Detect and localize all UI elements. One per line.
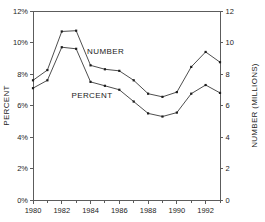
- series-marker-number-1988: [147, 93, 149, 95]
- left-tick-label-10pct: 10%: [13, 38, 28, 47]
- series-marker-number-1993: [219, 61, 221, 63]
- series-marker-number-1987: [133, 79, 135, 81]
- series-marker-percent-1991: [190, 93, 192, 95]
- dual-axis-line-chart: 0%2%4%6%8%10%12% 024681012 1980198219841…: [0, 0, 265, 222]
- right-tick-label-4: 4: [226, 133, 230, 142]
- x-tick-label-1980: 1980: [25, 206, 42, 215]
- series-marker-number-1980: [32, 79, 34, 81]
- series-marker-percent-1980: [32, 87, 34, 89]
- right-tick-label-12: 12: [226, 7, 234, 16]
- series-marker-percent-1984: [89, 81, 91, 83]
- chart-canvas: 0%2%4%6%8%10%12% 024681012 1980198219841…: [0, 0, 265, 222]
- left-tick-label-2pct: 2%: [17, 164, 28, 173]
- chart-background: [0, 0, 265, 222]
- x-tick-label-1988: 1988: [140, 206, 157, 215]
- series-marker-number-1984: [89, 64, 91, 66]
- series-marker-number-1991: [190, 66, 192, 68]
- x-tick-label-1984: 1984: [82, 206, 99, 215]
- series-annotation-percent: PERCENT: [71, 91, 112, 100]
- series-marker-percent-1988: [147, 112, 149, 114]
- left-tick-label-4pct: 4%: [17, 133, 28, 142]
- x-tick-label-1992: 1992: [197, 206, 214, 215]
- series-marker-percent-1990: [176, 111, 178, 113]
- series-marker-number-1986: [118, 70, 120, 72]
- series-marker-number-1983: [75, 30, 77, 32]
- x-tick-label-1990: 1990: [169, 206, 186, 215]
- series-marker-percent-1992: [205, 84, 207, 86]
- series-marker-percent-1981: [46, 79, 48, 81]
- series-marker-number-1981: [46, 69, 48, 71]
- series-marker-percent-1989: [161, 115, 163, 117]
- series-marker-number-1982: [61, 30, 63, 32]
- right-tick-label-10: 10: [226, 38, 234, 47]
- series-marker-percent-1986: [118, 89, 120, 91]
- right-tick-label-8: 8: [226, 70, 230, 79]
- series-marker-percent-1983: [75, 48, 77, 50]
- series-marker-percent-1982: [61, 46, 63, 48]
- left-tick-label-8pct: 8%: [17, 70, 28, 79]
- right-tick-label-2: 2: [226, 164, 230, 173]
- right-tick-label-0: 0: [226, 196, 230, 205]
- left-axis-title: PERCENT: [2, 85, 11, 125]
- right-axis-title: NUMBER (MILLIONS): [250, 63, 259, 148]
- right-tick-label-6: 6: [226, 101, 230, 110]
- left-tick-label-12pct: 12%: [13, 7, 28, 16]
- series-marker-percent-1987: [133, 100, 135, 102]
- x-tick-label-1986: 1986: [111, 206, 128, 215]
- series-marker-percent-1993: [219, 92, 221, 94]
- left-tick-label-6pct: 6%: [17, 101, 28, 110]
- x-tick-label-1982: 1982: [53, 206, 70, 215]
- series-marker-number-1992: [205, 51, 207, 53]
- left-tick-label-0pct: 0%: [17, 196, 28, 205]
- series-marker-number-1989: [161, 96, 163, 98]
- series-annotation-number: NUMBER: [87, 47, 124, 56]
- series-marker-percent-1985: [104, 85, 106, 87]
- series-marker-number-1990: [176, 91, 178, 93]
- series-marker-number-1985: [104, 68, 106, 70]
